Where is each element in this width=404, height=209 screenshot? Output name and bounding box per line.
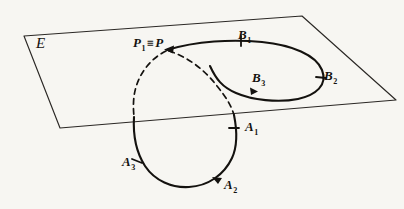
figure-canvas: E P1≡P B1 B2 B3 A1 A2 A3 — [0, 0, 404, 209]
point-label-p-base: P — [133, 35, 141, 50]
a3-base: A — [122, 154, 131, 169]
b3-sub: 3 — [261, 79, 266, 88]
b2-sub: 2 — [333, 77, 338, 86]
curve-a-visible — [134, 115, 237, 187]
curve-a-hidden-left — [133, 51, 166, 117]
a2-sub: 2 — [233, 186, 238, 195]
arrow-tick-a2 — [212, 177, 222, 184]
tick-marks-a — [132, 128, 239, 163]
point-label-a3: A3 — [122, 155, 135, 172]
point-label-a1: A1 — [245, 120, 258, 137]
point-label-b3: B3 — [252, 71, 265, 88]
arrow-tick-b3 — [250, 88, 258, 96]
plane-E — [24, 16, 396, 128]
plane-label-E: E — [36, 36, 45, 51]
point-label-b2: B2 — [324, 69, 337, 86]
a3-sub: 3 — [131, 163, 136, 172]
curve-b-loop — [167, 41, 324, 101]
b1-sub: 1 — [247, 36, 252, 45]
b3-base: B — [252, 70, 261, 85]
a2-base: A — [224, 177, 233, 192]
equivalence-symbol: ≡ — [145, 36, 155, 50]
curve-b-upper — [167, 41, 324, 101]
curve-a-loop-solid — [134, 115, 237, 187]
curve-a-loop-hidden — [133, 51, 234, 117]
b1-base: B — [238, 27, 247, 42]
point-label-a2: A2 — [224, 178, 237, 195]
a1-base: A — [245, 119, 254, 134]
point-label-p1-equiv-p: P1≡P — [133, 36, 163, 53]
a1-sub: 1 — [254, 128, 259, 137]
point-label-p-tail: P — [155, 35, 163, 50]
b2-base: B — [324, 68, 333, 83]
plane-E-outline — [24, 16, 396, 128]
diagram-svg — [0, 0, 404, 209]
point-label-b1: B1 — [238, 28, 251, 45]
curve-a-hidden-right — [169, 51, 234, 115]
